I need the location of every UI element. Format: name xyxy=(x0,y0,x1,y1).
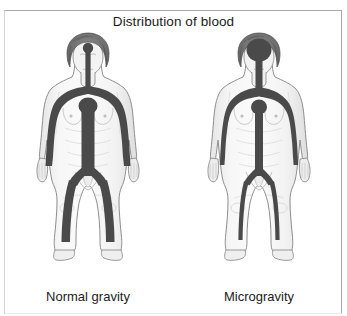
neck-vessel xyxy=(256,50,263,90)
panel-microgravity: Microgravity xyxy=(184,30,334,288)
foot-right xyxy=(101,250,122,260)
caption-microgravity: Microgravity xyxy=(184,289,334,304)
foot-left xyxy=(225,250,246,260)
hand-right xyxy=(299,158,310,182)
forearm-vessel-left xyxy=(220,157,225,165)
blood-distribution-figure: Distribution of blood xyxy=(0,0,347,316)
page-title: Distribution of blood xyxy=(0,14,347,29)
caption-normal-gravity: Normal gravity xyxy=(13,289,163,304)
panel-normal-gravity: Normal gravity xyxy=(13,30,163,288)
descending-aorta xyxy=(255,105,263,176)
hand-left xyxy=(208,158,219,182)
body-diagram-normal-gravity xyxy=(13,30,163,262)
neck-vessel xyxy=(85,48,90,90)
body-diagram-microgravity xyxy=(184,30,334,262)
foot-left xyxy=(54,250,75,260)
forearm-vessel-right xyxy=(293,157,298,165)
forearm-vessel-right xyxy=(123,157,131,166)
forearm-vessel-left xyxy=(46,157,54,166)
descending-aorta xyxy=(82,104,95,176)
foot-right xyxy=(272,250,293,260)
